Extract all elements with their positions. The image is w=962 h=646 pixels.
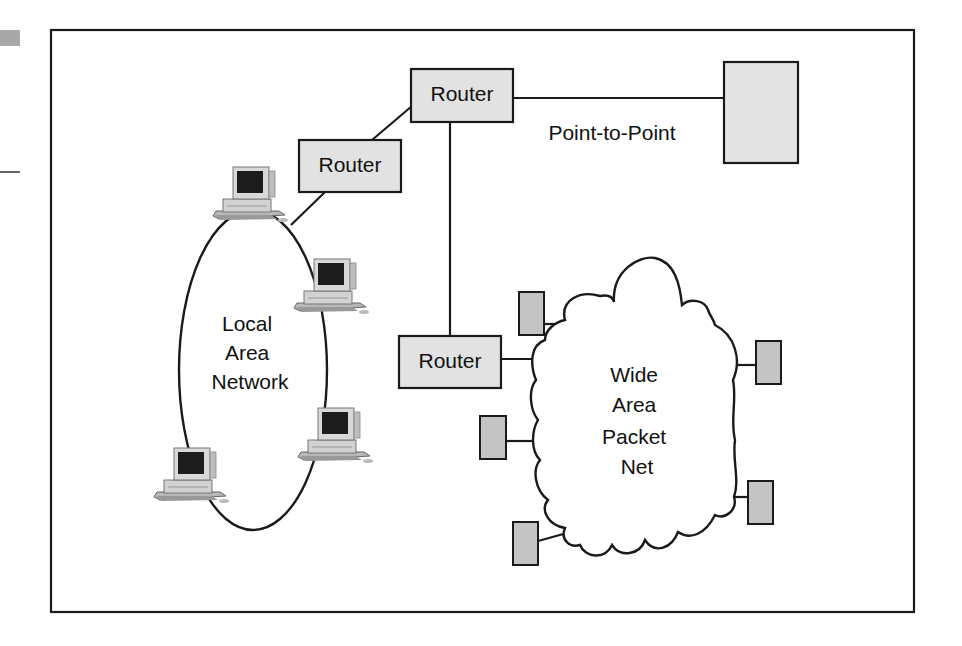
remote-host xyxy=(724,62,798,163)
wan-device xyxy=(519,292,544,335)
wan-device xyxy=(513,522,538,565)
router-label: Router xyxy=(430,82,493,105)
computer-icon xyxy=(154,448,229,503)
wan-device xyxy=(756,341,781,384)
computer-icon xyxy=(298,408,373,463)
margin-tab xyxy=(0,30,20,46)
router-label: Router xyxy=(418,349,481,372)
computer-icon xyxy=(213,167,288,222)
router-label: Router xyxy=(318,153,381,176)
router-bottom: Router xyxy=(399,336,501,388)
router-left: Router xyxy=(299,140,401,192)
link-router-left-router-top xyxy=(372,106,412,140)
wan-device xyxy=(748,481,773,524)
router-top: Router xyxy=(411,69,513,122)
lan-label: Local Area Network xyxy=(211,312,289,393)
link-lan-router-left xyxy=(291,192,325,225)
computer-icon xyxy=(294,259,369,314)
point-to-point-label: Point-to-Point xyxy=(548,121,675,144)
wan-device xyxy=(480,416,506,459)
network-diagram: Local Area Network Router Router Router … xyxy=(0,0,962,646)
